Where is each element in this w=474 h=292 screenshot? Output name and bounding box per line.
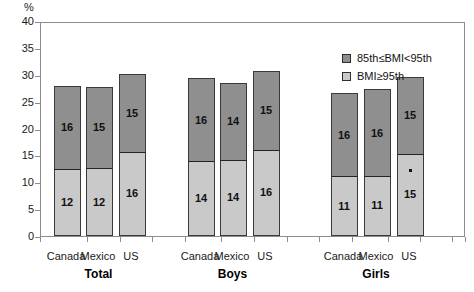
bar-boys-mexico: 1414 xyxy=(220,83,247,236)
legend-swatch-dark-icon xyxy=(342,54,351,63)
bar-segment-obese: 11 xyxy=(364,177,391,236)
bar-value-label: 15 xyxy=(404,189,416,200)
bar-segment-overweight: 16 xyxy=(188,78,215,162)
bar-value-label: 14 xyxy=(227,116,239,127)
bar-segment-obese: 15 xyxy=(397,155,424,236)
bar-value-label: 12 xyxy=(61,197,73,208)
y-axis-tick-label: 30 xyxy=(8,70,34,81)
bar-value-label: 15 xyxy=(126,108,138,119)
x-axis-tick-mark xyxy=(319,237,320,242)
bar-segment-obese: 16 xyxy=(253,151,280,236)
x-axis-tick-mark xyxy=(452,237,453,242)
bar-girls-mexico: 1611 xyxy=(364,89,391,236)
bar-value-label: 16 xyxy=(338,130,350,141)
chart-legend: 85th≤BMI<95th BMI≥95th xyxy=(342,53,432,89)
bar-value-label: 16 xyxy=(195,115,207,126)
bar-boys-canada: 1614 xyxy=(188,78,215,236)
bar-segment-obese: 14 xyxy=(188,162,215,236)
bar-segment-overweight: 14 xyxy=(220,83,247,161)
bar-segment-overweight: 16 xyxy=(54,86,81,171)
bar-value-label: 12 xyxy=(93,197,105,208)
bar-total-us: 1516 xyxy=(119,74,146,236)
y-axis-tick-label: 10 xyxy=(8,177,34,188)
bar-value-label: 16 xyxy=(61,122,73,133)
x-axis-tick-mark xyxy=(254,237,255,242)
bar-segment-obese: 12 xyxy=(54,170,81,236)
bar-value-label: 15 xyxy=(404,110,416,121)
bar-total-mexico: 1512 xyxy=(86,87,113,236)
x-axis-tick-mark xyxy=(152,237,153,242)
bar-segment-obese: 16 xyxy=(119,153,146,236)
x-axis-tick-mark xyxy=(120,237,121,242)
group-label-boys: Boys xyxy=(183,268,283,281)
x-axis-label-us: US xyxy=(91,250,171,262)
bar-total-canada: 1612 xyxy=(54,86,81,237)
legend-label-overweight: 85th≤BMI<95th xyxy=(357,53,432,64)
bar-segment-obese: 12 xyxy=(86,169,113,236)
bar-segment-overweight: 15 xyxy=(253,71,280,151)
footnote-marker-icon xyxy=(409,169,412,172)
x-axis-tick-mark xyxy=(185,237,186,242)
bar-segment-obese: 14 xyxy=(220,161,247,236)
x-axis-tick-mark xyxy=(465,237,466,242)
bar-value-label: 15 xyxy=(93,122,105,133)
y-axis-tick-label: 35 xyxy=(8,43,34,54)
bar-boys-us: 1516 xyxy=(253,71,280,236)
bar-value-label: 11 xyxy=(371,200,383,211)
group-label-girls: Girls xyxy=(326,268,426,281)
y-axis-tick-label: 25 xyxy=(8,97,34,108)
x-axis-tick-mark xyxy=(352,237,353,242)
y-axis-tick-label: 40 xyxy=(8,16,34,27)
y-axis-tick-label: 0 xyxy=(8,231,34,242)
bar-value-label: 16 xyxy=(126,188,138,199)
x-axis-tick-mark xyxy=(420,237,421,242)
bar-value-label: 14 xyxy=(195,193,207,204)
plot-area: 161215121516161414141516161116111515 85t… xyxy=(40,22,465,237)
bar-segment-overweight: 16 xyxy=(331,93,358,177)
x-axis-label-us: US xyxy=(225,250,305,262)
bar-segment-overweight: 15 xyxy=(86,87,113,170)
group-label-total: Total xyxy=(49,268,149,281)
x-axis-tick-mark xyxy=(87,237,88,242)
bar-value-label: 14 xyxy=(227,192,239,203)
bar-value-label: 15 xyxy=(260,105,272,116)
x-axis-tick-mark xyxy=(287,237,288,242)
bar-value-label: 16 xyxy=(260,187,272,198)
bar-segment-overweight: 16 xyxy=(364,89,391,177)
legend-label-obese: BMI≥95th xyxy=(357,71,404,82)
bar-girls-us: 1515 xyxy=(397,77,424,236)
x-axis-tick-mark xyxy=(388,237,389,242)
y-axis-tick-label: 15 xyxy=(8,150,34,161)
legend-item-overweight: 85th≤BMI<95th xyxy=(342,53,432,64)
bar-girls-canada: 1611 xyxy=(331,93,358,236)
bar-segment-overweight: 15 xyxy=(119,74,146,153)
bar-segment-obese: 11 xyxy=(331,177,358,236)
bar-value-label: 16 xyxy=(371,128,383,139)
y-axis-tick-label: 5 xyxy=(8,204,34,215)
x-axis-tick-mark xyxy=(221,237,222,242)
bar-value-label: 11 xyxy=(338,201,350,212)
x-axis-tick-mark xyxy=(40,237,41,242)
y-axis-tick-label: 20 xyxy=(8,124,34,135)
legend-item-obese: BMI≥95th xyxy=(342,71,432,82)
legend-swatch-light-icon xyxy=(342,72,351,81)
bmi-prevalence-stacked-bar-chart: % 4035302520151050 161215121516161414141… xyxy=(0,0,474,292)
x-axis-label-us: US xyxy=(369,250,449,262)
